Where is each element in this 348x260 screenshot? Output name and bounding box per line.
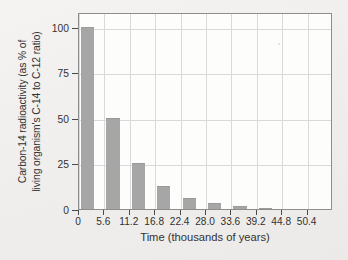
horizontal-gridline	[79, 29, 331, 30]
bar	[259, 208, 272, 209]
vertical-gridline	[282, 14, 283, 209]
y-tick-label: 0	[29, 205, 69, 216]
vertical-gridline	[231, 14, 232, 209]
x-tick-mark	[154, 210, 155, 215]
y-tick-label: 100	[29, 22, 69, 33]
vertical-gridline	[155, 14, 156, 209]
horizontal-gridline	[79, 74, 331, 75]
x-tick-label: 50.4	[287, 216, 327, 227]
vertical-gridline	[130, 14, 131, 209]
scan-speckle	[278, 43, 280, 45]
y-tick-mark	[72, 28, 78, 29]
x-axis-title: Time (thousands of years)	[78, 231, 332, 243]
x-tick-mark	[256, 210, 257, 215]
y-tick-mark	[72, 164, 78, 165]
y-tick-label: 75	[29, 68, 69, 79]
y-tick-label: 25	[29, 159, 69, 170]
x-tick-mark	[129, 210, 130, 215]
x-tick-mark	[103, 210, 104, 215]
carbon-14-decay-chart: Carbon-14 radioactivity (as % of living …	[0, 0, 348, 260]
bar	[233, 206, 246, 209]
y-axis-title: Carbon-14 radioactivity (as % of living …	[0, 0, 58, 222]
y-tick-label: 50	[29, 113, 69, 124]
bar	[157, 186, 170, 209]
bar	[183, 198, 196, 209]
vertical-gridline	[308, 14, 309, 209]
x-tick-mark	[78, 210, 79, 215]
x-tick-mark	[307, 210, 308, 215]
x-tick-mark	[205, 210, 206, 215]
bar	[81, 27, 94, 209]
vertical-gridline	[257, 14, 258, 209]
x-tick-mark	[180, 210, 181, 215]
bar	[208, 203, 221, 209]
bar	[132, 163, 145, 209]
vertical-gridline	[181, 14, 182, 209]
plot-area	[78, 13, 332, 210]
vertical-gridline	[79, 14, 80, 209]
vertical-gridline	[104, 14, 105, 209]
y-tick-mark	[72, 73, 78, 74]
y-tick-mark	[72, 119, 78, 120]
x-tick-mark	[281, 210, 282, 215]
x-tick-mark	[230, 210, 231, 215]
bar	[106, 118, 119, 209]
y-axis-title-line1: Carbon-14 radioactivity (as % of	[16, 31, 30, 191]
vertical-gridline	[206, 14, 207, 209]
